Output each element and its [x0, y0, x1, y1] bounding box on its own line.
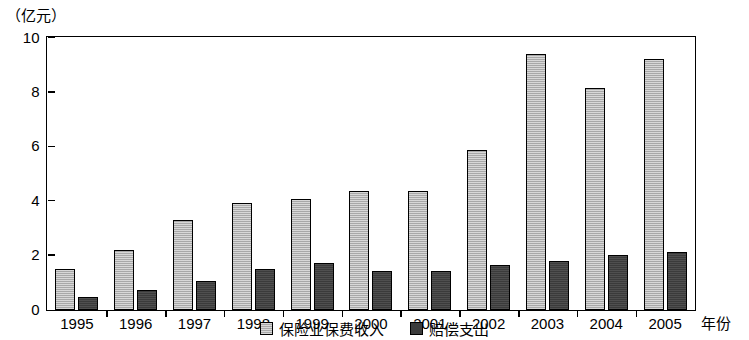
y-axis-tick-label: 0 — [10, 302, 40, 317]
bar-income — [408, 191, 428, 309]
bar-income — [526, 54, 546, 310]
y-axis-tick-label: 2 — [10, 247, 40, 262]
bar-payout — [196, 281, 216, 310]
bar-group — [577, 38, 636, 310]
bar-group — [48, 38, 107, 310]
legend: 保险业保费收入 赔偿支出 — [0, 318, 749, 339]
x-axis-tick-mark — [165, 310, 167, 317]
bar-income — [644, 59, 664, 309]
bar-payout — [608, 255, 628, 309]
y-axis-tick-label: 4 — [10, 193, 40, 208]
x-axis-tick-mark — [224, 310, 226, 317]
bar-group — [518, 38, 577, 310]
y-axis-tick-label: 6 — [10, 138, 40, 153]
legend-label-payout: 赔偿支出 — [429, 318, 489, 339]
bar-income — [291, 199, 311, 309]
bar-payout — [314, 263, 334, 309]
legend-label-income: 保险业保费收入 — [279, 318, 384, 339]
bar-chart: （亿元） 0246810 199519961997199819992000200… — [0, 0, 749, 340]
bar-income — [173, 220, 193, 310]
x-axis-tick-mark — [400, 310, 402, 317]
bar-payout — [255, 269, 275, 310]
x-axis-tick-mark — [342, 310, 344, 317]
bar-income — [232, 203, 252, 309]
bar-payout — [490, 265, 510, 310]
bar-income — [467, 150, 487, 309]
bar-group — [106, 38, 165, 310]
bar-income — [349, 191, 369, 309]
legend-item-income: 保险业保费收入 — [260, 318, 384, 339]
x-axis-tick-mark — [518, 310, 520, 317]
bar-payout — [78, 297, 98, 309]
bar-payout — [549, 261, 569, 310]
x-axis-tick-mark — [106, 310, 108, 317]
bar-payout — [372, 271, 392, 309]
bar-income — [585, 88, 605, 310]
bar-group — [636, 38, 695, 310]
bar-group — [165, 38, 224, 310]
x-axis-tick-mark — [577, 310, 579, 317]
bar-group — [224, 38, 283, 310]
bar-payout — [431, 271, 451, 309]
y-axis-tick-label: 8 — [10, 84, 40, 99]
legend-item-payout: 赔偿支出 — [410, 318, 489, 339]
bar-income — [55, 269, 75, 310]
bar-group — [459, 38, 518, 310]
y-axis-unit-label: （亿元） — [6, 4, 66, 25]
y-axis-tick-label: 10 — [10, 30, 40, 45]
legend-swatch-payout — [410, 322, 423, 335]
x-axis-tick-mark — [283, 310, 285, 317]
bar-payout — [667, 252, 687, 309]
legend-swatch-income — [260, 322, 273, 335]
x-axis-tick-mark — [459, 310, 461, 317]
bar-group — [342, 38, 401, 310]
bar-group — [400, 38, 459, 310]
bar-income — [114, 250, 134, 310]
bars-layer — [48, 38, 695, 310]
bar-group — [283, 38, 342, 310]
x-axis-tick-mark — [636, 310, 638, 317]
bar-payout — [137, 290, 157, 309]
